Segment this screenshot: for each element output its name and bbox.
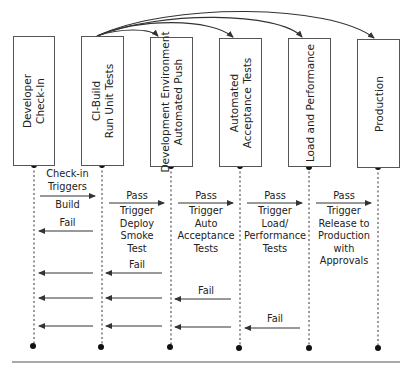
msg-fail-2: Fail: [109, 259, 165, 272]
msg-pass-3: Pass: [244, 190, 306, 203]
stage-label: Load and Performance: [303, 43, 316, 161]
stage-dev-environment: Development Environment Automated Push: [150, 37, 193, 167]
msg-build: Build: [40, 199, 95, 212]
msg-checkin-triggers: Check-in Triggers: [40, 168, 95, 193]
stage-ci-build: CI-Build Run Unit Tests: [81, 36, 124, 166]
msg-pass-4: Pass: [313, 190, 375, 203]
stage-label: Developer Check-In: [21, 74, 47, 128]
stage-developer-checkin: Developer Check-In: [13, 36, 55, 166]
stage-production: Production: [357, 39, 400, 168]
msg-trigger-deploy: Trigger Deploy Smoke Test: [109, 205, 165, 255]
stage-label: Production: [372, 76, 385, 132]
msg-trigger-auto: Trigger Auto Acceptance Tests: [176, 205, 236, 255]
deploy-arcs: [97, 11, 374, 38]
stage-acceptance-tests: Automated Acceptance Tests: [219, 38, 262, 167]
stage-load-performance: Load and Performance: [288, 38, 331, 167]
stage-label: Automated Acceptance Tests: [228, 57, 254, 148]
msg-trigger-load: Trigger Load/ Performance Tests: [244, 205, 306, 255]
msg-fail-3: Fail: [178, 285, 234, 298]
msg-trigger-release: Trigger Release to Production with Appro…: [313, 205, 375, 268]
msg-pass-2: Pass: [176, 190, 236, 203]
msg-fail-1: Fail: [40, 217, 95, 230]
stage-label: CI-Build Run Unit Tests: [90, 64, 116, 138]
stage-label: Development Environment Automated Push: [159, 31, 185, 172]
msg-pass-1: Pass: [109, 190, 165, 203]
msg-fail-4: Fail: [247, 313, 303, 326]
